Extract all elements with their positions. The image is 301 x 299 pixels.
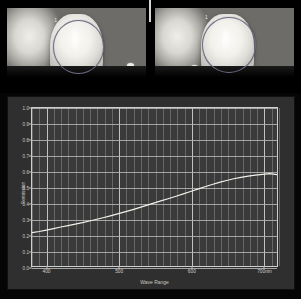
photo-strip: 1 1 xyxy=(0,0,301,93)
y-tick-mark xyxy=(29,268,32,269)
tooth-photo-right-image: 1 xyxy=(155,8,294,86)
y-tick-mark xyxy=(29,140,32,141)
grid-line-vertical xyxy=(279,108,280,266)
y-tick-mark xyxy=(29,124,32,125)
roi-ellipse-right xyxy=(202,17,255,73)
y-tick-label: 0.7 xyxy=(23,154,29,159)
y-tick-label: 0.1 xyxy=(23,250,29,255)
y-tick-mark xyxy=(29,236,32,237)
y-tick-label: 0.5 xyxy=(23,186,29,191)
y-tick-mark xyxy=(29,204,32,205)
y-tick-mark xyxy=(29,188,32,189)
y-tick-mark xyxy=(29,108,32,109)
y-tick-label: 0.0 xyxy=(23,266,29,271)
x-tick-label: 700nm xyxy=(257,269,272,275)
plot-area: 0.00.10.20.30.40.50.60.70.80.91.0 400500… xyxy=(31,107,278,267)
tooth-photo-right: 1 xyxy=(155,8,294,86)
tooth-photo-left-image: 1 xyxy=(7,8,146,86)
y-tick-mark xyxy=(29,156,32,157)
y-tick-label: 0.8 xyxy=(23,138,29,143)
grid-line-horizontal xyxy=(32,268,277,269)
y-tick-label: 0.2 xyxy=(23,234,29,239)
y-tick-label: 0.3 xyxy=(23,218,29,223)
y-tick-mark xyxy=(29,172,32,173)
roi-ellipse-left xyxy=(53,20,104,74)
roi-label-left: 1 xyxy=(54,18,57,23)
x-tick-label: 500 xyxy=(115,269,123,275)
roi-label-right: 1 xyxy=(205,15,208,20)
tooth-photo-left: 1 xyxy=(7,8,146,86)
photo-divider-tick xyxy=(149,0,151,22)
x-tick-label: 400 xyxy=(43,269,51,275)
x-axis-title: Wave Range xyxy=(31,279,278,285)
y-tick-mark xyxy=(29,252,32,253)
y-tick-label: 0.9 xyxy=(23,122,29,127)
y-tick-mark xyxy=(29,220,32,221)
y-tick-label: 1.0 xyxy=(23,106,29,111)
y-tick-label: 0.6 xyxy=(23,170,29,175)
figure-root: 1 1 Remission 0.00.10. xyxy=(0,0,301,299)
remission-curve xyxy=(32,108,277,267)
remission-curve-path xyxy=(32,174,277,233)
y-tick-label: 0.4 xyxy=(23,202,29,207)
x-tick-label: 600 xyxy=(188,269,196,275)
spectrum-chart: Remission 0.00.10.20.30.40.50.60.70.80.9… xyxy=(7,96,295,290)
